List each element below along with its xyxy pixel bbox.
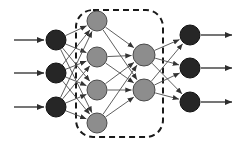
node-h2-2 [133,79,155,101]
connection-edge [155,40,180,51]
neural-network-canvas [0,0,244,147]
node-h1-1 [87,11,107,31]
node-h1-2 [87,47,107,67]
node-out-2 [180,58,200,78]
connection-edge [107,56,131,57]
connection-edge [154,73,179,85]
connection-edge [152,63,182,94]
edges-hidden1-to-hidden2 [103,27,137,117]
edges-hidden2-to-output [151,40,182,100]
connection-edge [155,93,179,99]
neural-network-diagram [0,0,244,147]
node-in-1 [46,30,66,50]
input-arrows [14,40,44,107]
output-arrows [201,35,232,102]
network-nodes [46,11,200,133]
connection-edge [155,58,179,65]
node-h2-1 [133,44,155,66]
node-in-2 [46,63,66,83]
node-out-3 [180,92,200,112]
node-in-3 [46,97,66,117]
node-out-1 [180,25,200,45]
connection-edge [106,27,134,48]
node-h1-4 [87,113,107,133]
connection-edge [106,97,134,117]
node-h1-3 [87,80,107,100]
